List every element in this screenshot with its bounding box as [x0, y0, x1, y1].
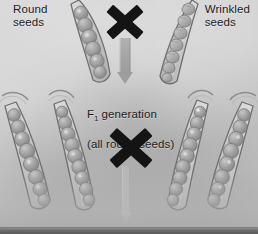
down-arrow-parent-to-f1: [110, 38, 140, 86]
cross-symbol-f1: [107, 128, 155, 167]
pea-cross-figure: Round seeds Wrinkled seeds: [0, 0, 258, 234]
label-round-seeds: Round seeds: [13, 3, 47, 28]
label-f1-line1: F1 generation: [87, 108, 174, 126]
bottom-band: [0, 228, 258, 234]
label-wrinkled-seeds: Wrinkled seeds: [205, 3, 250, 28]
bottom-shading: [0, 170, 258, 228]
f1-suffix: generation: [98, 108, 157, 120]
cross-symbol-parent: [104, 4, 145, 40]
pod-parent-wrinkled: [142, 0, 212, 90]
